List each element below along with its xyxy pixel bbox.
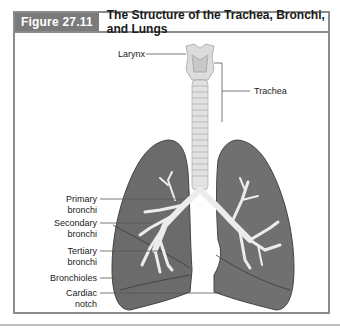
larynx (186, 44, 214, 80)
bottom-rule (0, 324, 340, 326)
label-tertiary-bronchi: Tertiary bronchi (40, 246, 97, 268)
label-trachea: Trachea (254, 86, 287, 97)
label-larynx: Larynx (103, 49, 145, 60)
label-secondary-bronchi: Secondary bronchi (40, 218, 97, 240)
right-lung (214, 140, 294, 310)
label-bronchioles: Bronchioles (30, 273, 97, 284)
left-lung (112, 140, 192, 310)
label-primary-bronchi: Primary bronchi (40, 194, 97, 216)
label-cardiac-notch: Cardiac notch (40, 288, 97, 310)
trachea (192, 80, 208, 190)
